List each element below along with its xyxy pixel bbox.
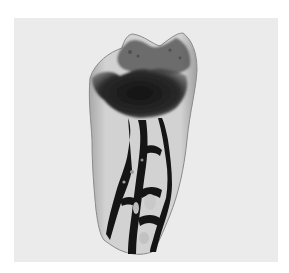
tooth-illustration (0, 0, 289, 273)
photo-frame (0, 0, 289, 273)
